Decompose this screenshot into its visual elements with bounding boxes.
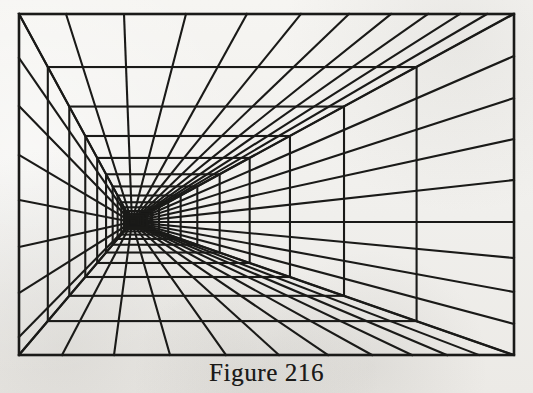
perspective-ray-top (132, 14, 487, 222)
perspective-ray-bottom (132, 222, 328, 355)
figure-page: Figure 216 (0, 0, 533, 393)
perspective-ray-left (19, 222, 132, 337)
perspective-ray-right (132, 222, 514, 355)
perspective-ray-top (124, 14, 132, 222)
perspective-tunnel-diagram (0, 0, 533, 393)
figure-caption: Figure 216 (0, 356, 533, 390)
vanishing-point-rays (19, 14, 514, 355)
perspective-ray-top (132, 14, 349, 222)
perspective-ray-bottom (132, 222, 170, 355)
perspective-ray-right (132, 222, 514, 292)
perspective-ray-bottom (132, 222, 412, 355)
perspective-ray-left (19, 222, 132, 293)
perspective-ray-bottom (114, 222, 132, 355)
perspective-ray-top (132, 14, 391, 222)
perspective-ray-right (132, 56, 514, 222)
perspective-ray-left (19, 222, 132, 355)
perspective-ray-bottom (132, 222, 479, 355)
figure-caption-text: Figure 216 (209, 356, 324, 390)
perspective-ray-left (19, 58, 132, 222)
